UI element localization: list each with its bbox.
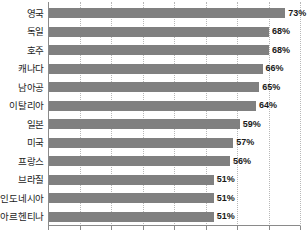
bar[interactable] — [48, 193, 214, 203]
bar-track: 56% — [48, 152, 308, 171]
bar-track: 68% — [48, 23, 308, 42]
category-label: 독일 — [0, 27, 48, 37]
category-label: 이탈리아 — [0, 101, 48, 111]
bar-row: 남아공65% — [0, 78, 308, 97]
axis-tick — [300, 226, 301, 230]
y-axis-line — [48, 2, 49, 226]
bar-value-label: 68% — [272, 27, 290, 36]
bar-track: 65% — [48, 78, 308, 97]
bar[interactable] — [48, 156, 230, 166]
category-label: 영국 — [0, 9, 48, 19]
bar[interactable] — [48, 175, 214, 185]
bar-track: 51% — [48, 189, 308, 208]
axis-tick — [143, 226, 144, 230]
bar-track: 51% — [48, 208, 308, 227]
plot-area: 영국73%독일68%호주68%캐나다66%남아공65%이탈리아64%일본59%미… — [0, 0, 308, 243]
category-label: 인도네시아 — [0, 194, 48, 204]
axis-tick — [80, 226, 81, 230]
category-label: 캐나다 — [0, 64, 48, 74]
bar-row: 브라질51% — [0, 171, 308, 190]
bar-track: 68% — [48, 41, 308, 60]
category-label: 아르헨티나 — [0, 212, 48, 222]
bar-track: 51% — [48, 171, 308, 190]
bar-track: 57% — [48, 134, 308, 153]
bar-value-label: 51% — [217, 212, 235, 221]
bar-value-label: 73% — [288, 9, 306, 18]
bar[interactable] — [48, 101, 256, 111]
bar[interactable] — [48, 119, 240, 129]
bar-chart: 영국73%독일68%호주68%캐나다66%남아공65%이탈리아64%일본59%미… — [0, 0, 308, 243]
bar[interactable] — [48, 45, 269, 55]
bar-track: 73% — [48, 4, 308, 23]
bar-track: 64% — [48, 97, 308, 116]
bar-value-label: 51% — [217, 175, 235, 184]
bar-track: 66% — [48, 60, 308, 79]
category-label: 미국 — [0, 138, 48, 148]
bar-row: 인도네시아51% — [0, 189, 308, 208]
bar-value-label: 66% — [266, 64, 284, 73]
bar[interactable] — [48, 64, 263, 74]
bar-value-label: 64% — [259, 101, 277, 110]
bar-track: 59% — [48, 115, 308, 134]
bar-row: 아르헨티나51% — [0, 208, 308, 227]
bar-row: 캐나다66% — [0, 60, 308, 79]
bar[interactable] — [48, 138, 233, 148]
axis-tick — [174, 226, 175, 230]
bar-row: 독일68% — [0, 23, 308, 42]
bar-value-label: 51% — [217, 194, 235, 203]
bar-value-label: 65% — [262, 83, 280, 92]
bar-rows: 영국73%독일68%호주68%캐나다66%남아공65%이탈리아64%일본59%미… — [0, 4, 308, 226]
bar[interactable] — [48, 27, 269, 37]
bar-row: 이탈리아64% — [0, 97, 308, 116]
bar-row: 미국57% — [0, 134, 308, 153]
axis-tick — [111, 226, 112, 230]
bar-value-label: 59% — [243, 120, 261, 129]
axis-tick — [48, 226, 49, 230]
category-label: 프랑스 — [0, 157, 48, 167]
bar[interactable] — [48, 8, 285, 18]
bar-row: 영국73% — [0, 4, 308, 23]
bar-value-label: 56% — [233, 157, 251, 166]
bar[interactable] — [48, 82, 259, 92]
axis-tick — [237, 226, 238, 230]
bar-value-label: 57% — [236, 138, 254, 147]
axis-tick — [206, 226, 207, 230]
axis-tick — [269, 226, 270, 230]
category-label: 남아공 — [0, 83, 48, 93]
category-label: 브라질 — [0, 175, 48, 185]
category-label: 호주 — [0, 46, 48, 56]
bar-row: 호주68% — [0, 41, 308, 60]
bar-row: 일본59% — [0, 115, 308, 134]
bar[interactable] — [48, 212, 214, 222]
category-label: 일본 — [0, 120, 48, 130]
bar-value-label: 68% — [272, 46, 290, 55]
bar-row: 프랑스56% — [0, 152, 308, 171]
